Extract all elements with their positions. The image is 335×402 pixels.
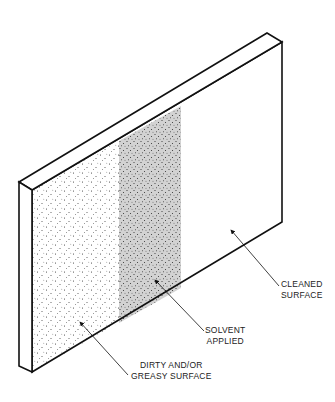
- solvent-band-speckle: [119, 106, 181, 323]
- solvent-applied-label: SOLVENT APPLIED: [205, 325, 245, 346]
- panel-left-edge: [19, 182, 32, 372]
- solvent-label-line1: SOLVENT: [205, 325, 245, 336]
- cleaned-label-line2: SURFACE: [281, 290, 323, 301]
- dirty-label-line2: GREASY SURFACE: [131, 371, 212, 382]
- dirty-greasy-surface-label: DIRTY AND/OR GREASY SURFACE: [131, 360, 212, 381]
- panel-diagram: [0, 0, 335, 402]
- cleaned-label-line1: CLEANED: [281, 279, 323, 290]
- solvent-label-line2: APPLIED: [205, 336, 245, 347]
- cleaned-surface-label: CLEANED SURFACE: [281, 279, 323, 300]
- dirty-label-line1: DIRTY AND/OR: [131, 360, 212, 371]
